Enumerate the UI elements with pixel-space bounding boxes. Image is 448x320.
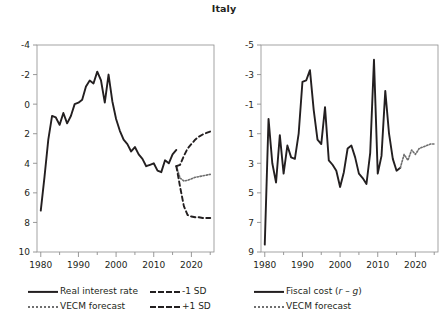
legend-swatch-minus-1-sd <box>148 287 182 297</box>
y-tick-label: -5 <box>245 40 254 50</box>
legend-swatch-vecm-forecast <box>26 302 60 312</box>
legend-fiscal-minus: – <box>342 286 352 296</box>
x-tick-label: 2010 <box>366 260 389 270</box>
y-tick-label: 9 <box>248 247 254 257</box>
x-tick-label: 2020 <box>180 260 203 270</box>
plot-area-right: 97531-1-3-519801990200020102020 <box>224 0 448 290</box>
series-line <box>41 72 177 211</box>
panel-right-fiscal-cost: 97531-1-3-519801990200020102020 Fiscal c… <box>224 0 448 320</box>
y-tick-label: 5 <box>248 188 254 198</box>
series-line <box>176 132 210 167</box>
x-tick-label: 1990 <box>67 260 90 270</box>
y-tick-label: -1 <box>245 100 254 110</box>
legend-swatch-real-interest-rate <box>26 287 60 297</box>
series-line <box>176 166 210 181</box>
y-tick-label: 4 <box>24 159 30 169</box>
legend-left: Real interest rate -1 SD VECM forecast +… <box>0 284 224 314</box>
y-tick-label: -3 <box>245 70 254 80</box>
x-tick-label: 2000 <box>329 260 352 270</box>
series-line <box>400 144 434 168</box>
y-tick-label: 3 <box>248 159 254 169</box>
y-tick-label: -4 <box>21 40 30 50</box>
x-tick-label: 1990 <box>291 260 314 270</box>
legend-fiscal-prefix: Fiscal cost ( <box>286 286 339 296</box>
legend-label-vecm-forecast: VECM forecast <box>60 301 125 312</box>
chart-figure: Italy 1086420-2-419801990200020102020 Re… <box>0 0 448 320</box>
y-tick-label: 6 <box>24 188 30 198</box>
plot-area-left: 1086420-2-419801990200020102020 <box>0 0 224 290</box>
legend-right: Fiscal cost (r – g) VECM forecast <box>224 284 448 314</box>
series-line <box>176 166 210 218</box>
legend-label-vecm-forecast-right: VECM forecast <box>286 301 351 312</box>
legend-swatch-fiscal-cost <box>252 287 286 297</box>
legend-label-fiscal-cost: Fiscal cost (r – g) <box>286 286 362 297</box>
series-line <box>265 60 401 245</box>
legend-fiscal-suffix: ) <box>358 286 362 296</box>
y-tick-label: -2 <box>21 70 30 80</box>
x-tick-label: 1980 <box>253 260 276 270</box>
panel-left-real-interest-rate: 1086420-2-419801990200020102020 Real int… <box>0 0 224 320</box>
y-tick-label: 7 <box>248 218 254 228</box>
x-tick-label: 2000 <box>105 260 128 270</box>
y-tick-label: 8 <box>24 218 30 228</box>
x-tick-label: 1980 <box>29 260 52 270</box>
y-tick-label: 0 <box>24 100 30 110</box>
legend-label-plus-1-sd: +1 SD <box>182 301 211 312</box>
legend-label-minus-1-sd: -1 SD <box>182 286 206 297</box>
x-tick-label: 2010 <box>142 260 165 270</box>
x-tick-label: 2020 <box>404 260 427 270</box>
legend-label-real-interest-rate: Real interest rate <box>60 286 138 297</box>
y-tick-label: 2 <box>24 129 30 139</box>
legend-swatch-vecm-forecast-right <box>252 302 286 312</box>
y-tick-label: 10 <box>19 247 31 257</box>
legend-swatch-plus-1-sd <box>148 302 182 312</box>
y-tick-label: 1 <box>248 129 254 139</box>
